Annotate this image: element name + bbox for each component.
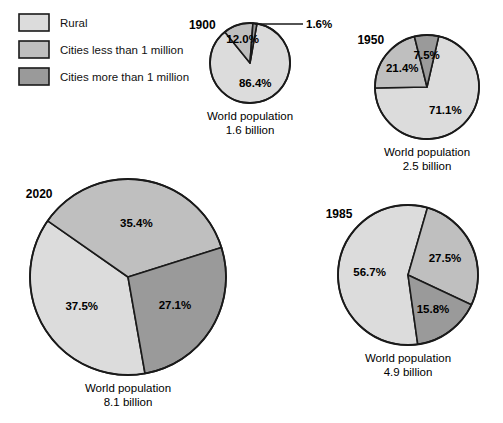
pie-caption-value-2020: 8.1 billion	[104, 396, 153, 408]
pie-label-2020-2: 27.1%	[159, 299, 192, 311]
pie-year-label-1985: 1985	[326, 207, 353, 221]
chart-canvas: RuralCities less than 1 millionCities mo…	[0, 0, 503, 423]
pie-label-2020-1: 35.4%	[120, 217, 153, 229]
pie-label-1900-1: 12.0%	[226, 33, 259, 45]
legend-swatch-cities_gt_1m	[19, 68, 49, 85]
pie-caption-title-2020: World population	[85, 382, 171, 394]
pie-year-label-1900: 1900	[189, 18, 216, 32]
legend-swatch-rural	[19, 14, 49, 31]
legend: RuralCities less than 1 millionCities mo…	[19, 14, 189, 85]
legend-item-cities_gt_1m: Cities more than 1 million	[19, 68, 189, 85]
legend-label-cities_gt_1m: Cities more than 1 million	[60, 71, 189, 83]
pie-label-1985-2: 15.8%	[417, 303, 450, 315]
legend-label-cities_lt_1m: Cities less than 1 million	[60, 44, 183, 56]
pie-chart-1985: 56.7%27.5%15.8%1985World population4.9 b…	[326, 205, 478, 378]
pie-caption-value-1950: 2.5 billion	[403, 160, 452, 172]
pie-chart-1950: 71.1%21.4%7.5%1950World population2.5 bi…	[357, 33, 479, 172]
population-pie-figure: RuralCities less than 1 millionCities mo…	[0, 0, 503, 423]
pie-caption-value-1900: 1.6 billion	[226, 124, 275, 136]
pie-label-1900-0: 86.4%	[239, 77, 272, 89]
pie-year-label-2020: 2020	[26, 187, 53, 201]
pie-label-1950-1: 21.4%	[386, 62, 419, 74]
pie-caption-title-1900: World population	[207, 110, 293, 122]
pie-label-1950-0: 71.1%	[429, 104, 462, 116]
pie-label-1985-0: 56.7%	[353, 266, 386, 278]
pie-label-2020-0: 37.5%	[65, 300, 98, 312]
pie-label-1900-2: 1.6%	[306, 18, 332, 30]
pie-label-1985-1: 27.5%	[429, 252, 462, 264]
legend-item-cities_lt_1m: Cities less than 1 million	[19, 41, 183, 58]
legend-label-rural: Rural	[60, 17, 87, 29]
pie-caption-value-1985: 4.9 billion	[384, 366, 433, 378]
pie-chart-1900: 86.4%12.0%1.6%1900World population1.6 bi…	[189, 18, 332, 136]
legend-swatch-cities_lt_1m	[19, 41, 49, 58]
pie-caption-title-1985: World population	[365, 352, 451, 364]
pie-label-1950-2: 7.5%	[414, 49, 440, 61]
pie-chart-2020: 37.5%35.4%27.1%2020World population8.1 b…	[26, 179, 226, 408]
pie-caption-title-1950: World population	[384, 146, 470, 158]
legend-item-rural: Rural	[19, 14, 87, 31]
pie-year-label-1950: 1950	[357, 33, 384, 47]
